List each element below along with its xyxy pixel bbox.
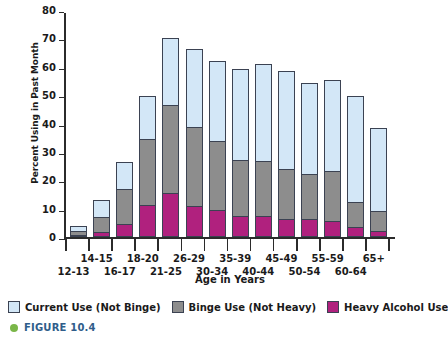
segment-heavy-use — [116, 224, 133, 237]
y-tick: 20 — [59, 182, 64, 183]
x-axis-label-55-59: 55-59 — [312, 253, 344, 264]
segment-current-use — [301, 83, 318, 174]
x-axis-label-18-20: 18-20 — [127, 253, 159, 264]
segment-current-use — [116, 162, 133, 188]
bar-60-64 — [347, 96, 364, 237]
bar-26-29 — [186, 49, 203, 237]
y-tick-label: 40 — [42, 119, 56, 130]
chart-legend: Current Use (Not Binge)Binge Use (Not He… — [8, 298, 402, 316]
y-tick-label: 80 — [42, 5, 56, 16]
segment-current-use — [324, 80, 341, 171]
segment-current-use — [278, 71, 295, 169]
segment-binge-use — [116, 189, 133, 224]
bar-30-34 — [209, 61, 226, 237]
y-tick: 70 — [59, 40, 64, 41]
bar-45-49 — [278, 71, 295, 237]
segment-binge-use — [324, 171, 341, 221]
x-tick — [111, 239, 113, 251]
segment-binge-use — [278, 169, 295, 218]
segment-binge-use — [139, 139, 156, 205]
segment-binge-use — [301, 174, 318, 220]
x-tick — [227, 239, 229, 251]
segment-current-use — [370, 128, 387, 211]
y-tick: 30 — [59, 154, 64, 155]
segment-current-use — [255, 64, 272, 161]
x-tick — [204, 239, 206, 251]
bar-35-39 — [232, 69, 249, 237]
y-tick-label: 50 — [42, 90, 56, 101]
bar-16-17 — [116, 162, 133, 237]
x-tick — [388, 239, 390, 251]
x-axis-title: Age in Years — [64, 274, 396, 285]
x-tick — [296, 239, 298, 251]
bar-40-44 — [255, 64, 272, 237]
x-tick — [319, 239, 321, 251]
segment-heavy-use — [162, 193, 179, 237]
segment-heavy-use — [232, 216, 249, 237]
legend-item-1: Binge Use (Not Heavy) — [172, 301, 317, 313]
x-axis-label-65plus: 65+ — [363, 253, 385, 264]
bar-12-13 — [70, 226, 87, 237]
legend-swatch-heavy-use — [327, 301, 339, 313]
bar-50-54 — [301, 83, 318, 237]
legend-swatch-current-use — [8, 301, 20, 313]
segment-heavy-use — [347, 227, 364, 237]
y-tick: 40 — [59, 126, 64, 127]
y-tick-label: 20 — [42, 175, 56, 186]
y-tick-label: 10 — [42, 204, 56, 215]
y-axis-title: Percent Using in Past Month — [30, 18, 40, 208]
x-axis-label-35-39: 35-39 — [219, 253, 251, 264]
segment-heavy-use — [209, 210, 226, 237]
segment-heavy-use — [324, 221, 341, 237]
bar-14-15 — [93, 200, 110, 237]
segment-current-use — [186, 49, 203, 127]
segment-heavy-use — [93, 232, 110, 237]
x-tick — [88, 239, 90, 251]
figure-caption-text: FIGURE 10.4 — [24, 322, 96, 333]
y-tick-label: 70 — [42, 33, 56, 44]
bar-21-25 — [162, 38, 179, 237]
segment-heavy-use — [278, 219, 295, 237]
x-tick — [342, 239, 344, 251]
x-tick — [157, 239, 159, 251]
segment-binge-use — [347, 202, 364, 227]
segment-current-use — [93, 200, 110, 217]
legend-item-0: Current Use (Not Binge) — [8, 301, 161, 313]
segment-binge-use — [232, 160, 249, 216]
segment-current-use — [162, 38, 179, 105]
segment-binge-use — [186, 127, 203, 206]
x-axis-label-14-15: 14-15 — [81, 253, 113, 264]
segment-binge-use — [255, 161, 272, 215]
segment-current-use — [347, 96, 364, 202]
bar-65plus — [370, 128, 387, 237]
segment-heavy-use — [370, 231, 387, 237]
x-axis-label-26-29: 26-29 — [173, 253, 205, 264]
x-tick — [134, 239, 136, 251]
y-tick: 80 — [59, 12, 64, 13]
legend-label-0: Current Use (Not Binge) — [25, 302, 161, 313]
x-axis-label-45-49: 45-49 — [265, 253, 297, 264]
segment-binge-use — [162, 105, 179, 194]
y-tick-label: 0 — [49, 232, 56, 243]
bar-18-20 — [139, 96, 156, 237]
legend-label-1: Binge Use (Not Heavy) — [189, 302, 317, 313]
y-tick: 60 — [59, 69, 64, 70]
legend-swatch-binge-use — [172, 301, 184, 313]
segment-binge-use — [370, 211, 387, 232]
legend-label-2: Heavy Alcohol Use — [344, 302, 448, 313]
plot-area: 01020304050607080 12-1314-1516-1718-2021… — [64, 10, 396, 240]
x-tick — [273, 239, 275, 251]
bar-55-59 — [324, 80, 341, 237]
bar-series-group — [66, 10, 395, 239]
segment-current-use — [232, 69, 249, 160]
segment-heavy-use — [186, 206, 203, 237]
segment-heavy-use — [139, 205, 156, 237]
x-tick — [65, 239, 67, 251]
y-tick-label: 60 — [42, 62, 56, 73]
segment-binge-use — [93, 217, 110, 232]
segment-binge-use — [209, 141, 226, 210]
segment-heavy-use — [301, 219, 318, 237]
segment-heavy-use — [70, 235, 87, 237]
segment-current-use — [139, 96, 156, 139]
